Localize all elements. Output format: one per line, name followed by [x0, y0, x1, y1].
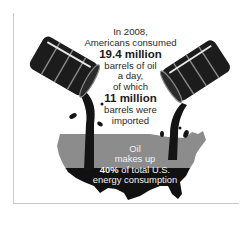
headline-text: In 2008, Americans consumed 19.4 million… [78, 27, 183, 126]
map-caption-rest: of total U.S. [119, 164, 171, 175]
map-caption-line: energy consumption [70, 175, 200, 185]
stat-consumption: 19.4 million [78, 48, 183, 61]
stat-percentage: 40% [100, 164, 119, 175]
headline-line: barrels were [78, 105, 183, 116]
headline-line: imported [78, 116, 183, 127]
headline-line: of which [78, 82, 183, 93]
map-caption: Oil makes up 40% of total U.S. energy co… [70, 144, 200, 186]
headline-line: Americans consumed [78, 38, 183, 49]
headline-line: In 2008, [78, 27, 183, 38]
